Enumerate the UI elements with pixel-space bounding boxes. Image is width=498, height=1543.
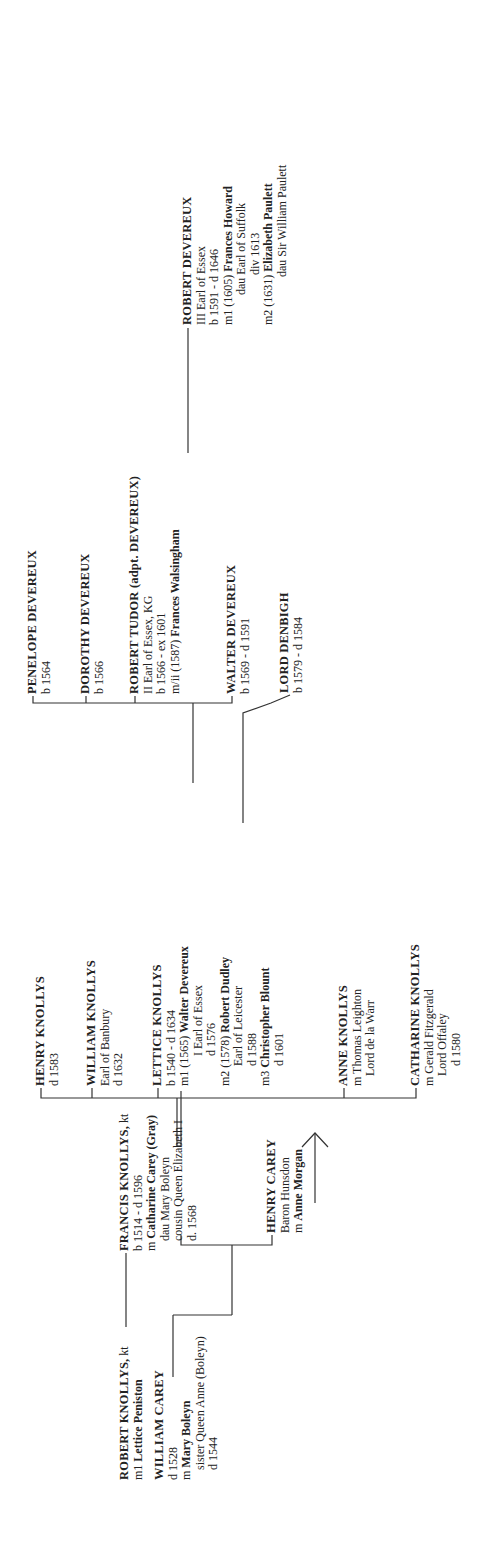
spouse-name: Frances Walsingham [168,529,182,636]
person-lettice-knollys: LETTICE KNOLLYS b 1540 - d 1634 m1 (1565… [151,946,286,1086]
person-name: LORD DENBIGH [278,592,292,693]
spouse-name: Elizabeth Paulett [261,183,275,271]
spouse-name: Christopher Blount [258,968,272,1068]
person-name: FRANCIS KNOLLYS, [117,1126,131,1251]
person-name: CATHARINE KNOLLYS [409,944,423,1086]
person-robert-knollys: ROBERT KNOLLYS, kt m1 Lettice Peniston [118,1346,145,1480]
person-name: LETTICE KNOLLYS [151,946,165,1086]
person-name: HENRY CAREY [265,1139,279,1233]
person-walter-devereux: WALTER DEVEREUX b 1569 - d 1591 [225,565,252,694]
family-tree-diagram: ROBERT KNOLLYS, kt m1 Lettice Peniston W… [0,0,498,1543]
spouse-name: Lettice Peniston [131,1379,145,1461]
person-lord-denbigh: LORD DENBIGH b 1579 - d 1584 [278,592,305,693]
spouse-name: Anne Morgan [291,1149,305,1221]
spouse-name: Thomas Leighton [350,989,364,1074]
spouse-name: Catharine Carey (Gray) [144,1115,158,1239]
person-william-carey: WILLIAM CAREY d 1528 m Mary Boleyn siste… [153,1336,221,1480]
person-francis-knollys: FRANCIS KNOLLYS, kt b 1514 - d 1596 m Ca… [118,1114,199,1251]
person-name: WILLIAM CAREY [153,1336,167,1480]
spouse-name: Walter Devereux [177,946,191,1033]
person-name: PENELOPE DEVEREUX [26,550,40,694]
person-penelope-devereux: PENELOPE DEVEREUX b 1564 [26,550,53,694]
person-name: ANNE KNOLLYS [337,985,351,1086]
person-name: ROBERT TUDOR [127,591,141,694]
person-name: WILLIAM KNOLLYS [85,960,99,1086]
spouse-name: Frances Howard [221,186,235,272]
person-name: ROBERT KNOLLYS, [117,1359,131,1480]
person-dorothy-devereux: DOROTHY DEVEREUX b 1566 [79,553,106,694]
person-henry-carey: HENRY CAREY Baron Hunsdon m Anne Morgan [265,1139,306,1233]
person-name: WALTER DEVEREUX [225,565,239,694]
spouse-name: Gerald Fitzgerald [422,989,436,1073]
person-catharine-knollys: CATHARINE KNOLLYS m Gerald Fitzgerald Lo… [409,944,463,1086]
person-name: HENRY KNOLLYS [34,976,48,1086]
spouse-name: Mary Boleyn [179,1401,193,1468]
person-anne-knollys: ANNE KNOLLYS m Thomas Leighton Lord de l… [337,985,378,1086]
spouse-name: Robert Dudley [218,957,232,1033]
person-name: DOROTHY DEVEREUX [79,553,93,694]
person-robert-devereux: ROBERT DEVEREUX III Earl of Essex b 1591… [181,165,289,325]
person-robert-tudor: ROBERT TUDOR (adpt. DEVEREUX) II Earl of… [128,476,182,694]
person-henry-knollys: HENRY KNOLLYS d 1583 [34,976,61,1086]
person-william-knollys: WILLIAM KNOLLYS Earl of Banbury d 1632 [85,960,126,1086]
person-name: ROBERT DEVEREUX [181,165,195,325]
